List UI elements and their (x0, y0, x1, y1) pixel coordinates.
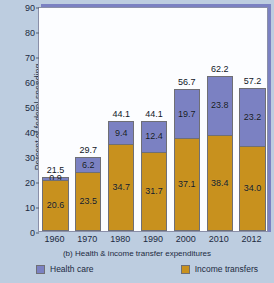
legend-item[interactable]: Income transfers (181, 264, 258, 274)
y-tick-label: 0 (30, 228, 35, 238)
bar-segment-value: 12.4 (145, 132, 163, 141)
plot-area: 0102030405060708090 21.50.920.629.76.223… (38, 7, 268, 232)
bar-segment-income-transfers[interactable]: 31.7 (141, 152, 167, 231)
bar-group[interactable]: 57.223.234.0 (239, 88, 265, 231)
bar-segment-health-care[interactable]: 23.8 (207, 76, 233, 136)
x-tick-label: 1970 (77, 234, 97, 244)
bar-segment-health-care[interactable]: 9.4 (108, 121, 134, 145)
bar-segment-value: 38.4 (211, 179, 229, 188)
x-tick-label: 1960 (44, 234, 64, 244)
bar-segment-health-care[interactable]: 12.4 (141, 121, 167, 152)
bar-segment-value: 19.7 (178, 110, 196, 119)
legend-label: Income transfers (195, 264, 258, 274)
y-tick-label: 80 (25, 28, 35, 38)
bar-group[interactable]: 56.719.737.1 (174, 89, 200, 231)
x-tick-label: 1980 (110, 234, 130, 244)
bar-total-label: 56.7 (178, 77, 196, 87)
bar-group[interactable]: 44.112.431.7 (141, 121, 167, 231)
bar-group[interactable]: 44.19.434.7 (108, 121, 134, 231)
bar-segment-income-transfers[interactable]: 34.7 (108, 144, 134, 231)
bar-segment-income-transfers[interactable]: 38.4 (207, 135, 233, 231)
legend-swatch-icon (36, 265, 45, 274)
bar-segment-value: 34.0 (244, 184, 262, 193)
y-tick-label: 50 (25, 103, 35, 113)
bar-segment-value: 37.1 (178, 180, 196, 189)
y-tick-label: 90 (25, 3, 35, 13)
bar-group[interactable]: 21.50.920.6 (42, 177, 68, 231)
bar-series-container: 21.50.920.629.76.223.544.19.434.744.112.… (39, 8, 267, 231)
bar-segment-income-transfers[interactable]: 23.5 (75, 172, 101, 231)
bar-total-label: 44.1 (145, 109, 163, 119)
bar-segment-health-care[interactable]: 6.2 (75, 157, 101, 173)
chart-legend: Health careIncome transfers (36, 264, 258, 274)
bar-segment-value: 20.6 (47, 201, 65, 210)
bar-segment-income-transfers[interactable]: 37.1 (174, 138, 200, 231)
bar-group[interactable]: 62.223.838.4 (207, 76, 233, 232)
chart-caption: (b) Health & income transfer expenditure… (0, 249, 274, 258)
y-tick-label: 30 (25, 153, 35, 163)
bar-segment-value: 23.5 (80, 197, 98, 206)
bar-segment-value: 9.4 (115, 129, 128, 138)
bar-segment-value: 31.7 (145, 187, 163, 196)
bar-segment-health-care[interactable]: 19.7 (174, 89, 200, 138)
legend-item[interactable]: Health care (36, 264, 93, 274)
y-tick-label: 70 (25, 53, 35, 63)
bar-segment-income-transfers[interactable]: 34.0 (239, 146, 265, 231)
y-tick-mark (36, 233, 39, 234)
bar-segment-value: 6.2 (82, 161, 95, 170)
bar-total-label: 29.7 (80, 145, 98, 155)
bar-segment-value: 34.7 (112, 183, 130, 192)
bar-segment-health-care[interactable]: 23.2 (239, 88, 265, 146)
x-tick-label: 1990 (143, 234, 163, 244)
bar-total-label: 44.1 (112, 109, 130, 119)
legend-label: Health care (50, 264, 93, 274)
y-tick-label: 20 (25, 178, 35, 188)
x-tick-label: 2012 (242, 234, 262, 244)
bar-total-label: 62.2 (211, 64, 229, 74)
bar-segment-value: 23.8 (211, 101, 229, 110)
chart-figure: Percent of federal spending 010203040506… (0, 0, 274, 283)
y-tick-label: 10 (25, 203, 35, 213)
x-tick-label: 2000 (176, 234, 196, 244)
y-tick-label: 40 (25, 128, 35, 138)
bar-total-label: 57.2 (244, 76, 262, 86)
x-tick-label: 2010 (209, 234, 229, 244)
bar-segment-value: 23.2 (244, 113, 262, 122)
bar-group[interactable]: 29.76.223.5 (75, 157, 101, 231)
bar-segment-income-transfers[interactable]: 20.6 (42, 180, 68, 232)
y-tick-label: 60 (25, 78, 35, 88)
legend-swatch-icon (181, 265, 190, 274)
